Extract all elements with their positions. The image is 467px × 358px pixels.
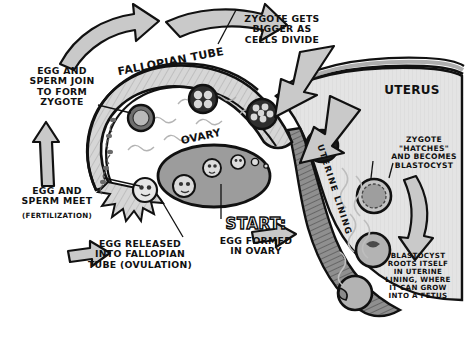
- diagram-canvas: EGG AND SPERM JOIN TO FORM ZYGOTE ZYGOTE…: [0, 0, 467, 358]
- blastocyst-implanted: [338, 276, 372, 310]
- follicle-medium: [203, 159, 221, 177]
- label-uterus: UTERUS: [376, 84, 448, 97]
- follicle-micro: [264, 164, 268, 168]
- leader-ovulation: [160, 198, 183, 237]
- label-egg-released: EGG RELEASED INTO FALLOPIAN TUBE (OVULAT…: [82, 239, 198, 270]
- released-egg: [133, 178, 157, 202]
- label-egg-sperm-meet: EGG AND SPERM MEET: [8, 186, 106, 207]
- zygote-stage-3-morula: [247, 99, 277, 129]
- follicle-large: [173, 175, 195, 197]
- label-start: START:: [219, 216, 293, 233]
- label-zygote-hatches: ZYGOTE "HATCHES" AND BECOMES BLASTOCYST: [382, 136, 466, 170]
- zygote-stage-2-cleavage: [189, 85, 217, 113]
- label-egg-formed-in-ovary: EGG FORMED IN OVARY: [206, 236, 306, 257]
- ovary: [158, 145, 270, 207]
- zygote-stage-1: [128, 105, 154, 131]
- label-zygote-divides: ZYGOTE GETS BIGGER AS CELLS DIVIDE: [230, 14, 334, 45]
- label-fertilization: (FERTILIZATION): [8, 212, 106, 220]
- blastocyst-hatching: [357, 179, 391, 213]
- arrow-left-up: [33, 122, 59, 186]
- follicle-tiny: [251, 158, 258, 165]
- follicle-small: [231, 155, 245, 169]
- label-blastocyst-roots: BLASTOCYST ROOTS ITSELF IN UTERINE LININ…: [376, 252, 460, 300]
- label-egg-sperm-join: EGG AND SPERM JOIN TO FORM ZYGOTE: [16, 66, 108, 108]
